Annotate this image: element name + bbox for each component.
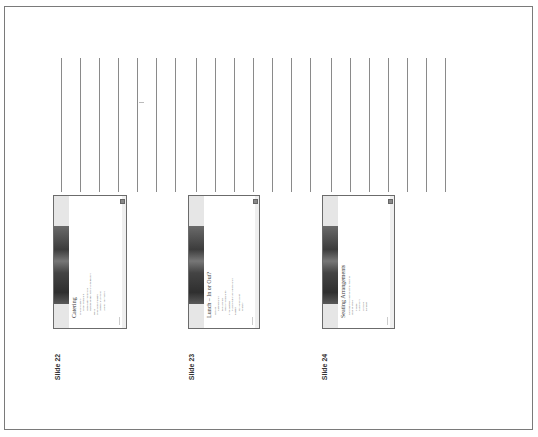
slide-photo-strip bbox=[54, 226, 69, 304]
slide-bullets: Who will cater?Local restaurantHotel cat… bbox=[79, 208, 106, 315]
slide-title: Seating Arrangements bbox=[340, 208, 346, 318]
note-line bbox=[253, 58, 254, 192]
note-line bbox=[99, 58, 100, 192]
note-line bbox=[445, 58, 446, 192]
note-line bbox=[407, 58, 408, 192]
slide-title: Lunch – In or Out? bbox=[206, 208, 212, 318]
slide-label-22: Slide 22 bbox=[52, 353, 62, 381]
slide-content: Catering Who will cater?Local restaurant… bbox=[71, 208, 119, 318]
note-line bbox=[234, 58, 235, 192]
note-line bbox=[137, 58, 138, 192]
note-line bbox=[156, 58, 157, 192]
slide-thumbnail-22[interactable]: Catering Who will cater?Local restaurant… bbox=[53, 195, 127, 329]
slide-photo-strip bbox=[323, 226, 338, 304]
slide-label-23: Slide 23 bbox=[186, 353, 196, 381]
note-line bbox=[196, 58, 197, 192]
slide-right-bar bbox=[122, 196, 126, 328]
note-line bbox=[118, 58, 119, 192]
slide-thumbnail-24[interactable]: Seating Arrangements Depends on objectiv… bbox=[322, 195, 395, 329]
note-line bbox=[388, 58, 389, 192]
slide-right-bar bbox=[255, 196, 259, 328]
slide-photo-strip bbox=[189, 226, 204, 304]
slide-content: Seating Arrangements Depends on objectiv… bbox=[340, 208, 388, 318]
note-line bbox=[61, 58, 62, 192]
slide-label-24: Slide 24 bbox=[319, 353, 329, 381]
note-line bbox=[331, 58, 332, 192]
note-line bbox=[80, 58, 81, 192]
stray-mark bbox=[139, 102, 144, 103]
note-line bbox=[310, 58, 311, 192]
slide-bullet: Banquet bbox=[365, 208, 368, 315]
note-line bbox=[215, 58, 216, 192]
note-line bbox=[426, 58, 427, 192]
note-line bbox=[291, 58, 292, 192]
slide-bullets: Depends on objective of the meetingSeati… bbox=[348, 208, 368, 315]
logo-icon bbox=[120, 199, 125, 204]
note-line bbox=[369, 58, 370, 192]
slide-bullet: Gratuity bbox=[241, 208, 244, 315]
slide-content: Lunch – In or Out? OptionsCatered lunchB… bbox=[206, 208, 254, 318]
slide-bullets: OptionsCatered lunchBox lunchesNearby re… bbox=[214, 208, 245, 315]
slide-bullet: Allergy information bbox=[103, 208, 106, 315]
note-line bbox=[175, 58, 176, 192]
note-line bbox=[272, 58, 273, 192]
logo-icon bbox=[253, 199, 258, 204]
slide-right-bar bbox=[390, 196, 394, 328]
slide-thumbnail-23[interactable]: Lunch – In or Out? OptionsCatered lunchB… bbox=[188, 195, 260, 329]
logo-icon bbox=[388, 199, 393, 204]
slide-footer bbox=[119, 317, 120, 325]
slide-footer bbox=[252, 317, 253, 325]
note-line bbox=[350, 58, 351, 192]
slide-footer bbox=[387, 317, 388, 325]
slide-title: Catering bbox=[71, 208, 77, 318]
